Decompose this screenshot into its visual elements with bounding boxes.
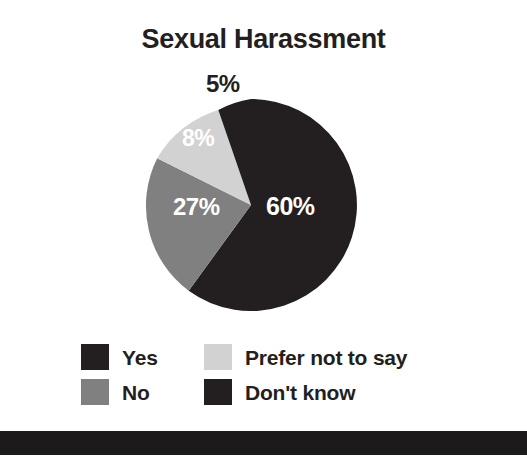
legend-label-no: No [122,382,150,403]
pie-value-label-prefer-not-to-say: 8% [182,125,214,152]
legend-swatch-prefer-not-to-say [204,344,232,370]
pie-chart-figure: Sexual Harassment 60% 27% 8% 5% Yes Pref… [0,0,527,464]
legend-label-yes: Yes [122,347,158,368]
legend-swatch-no [81,379,109,405]
legend-item-dont-know[interactable]: Don't know [204,379,355,405]
chart-legend: Yes Prefer not to say No Don't know [81,344,461,414]
legend-label-prefer-not-to-say: Prefer not to say [245,347,407,368]
page-title: Sexual Harassment [0,24,527,55]
legend-label-dont-know: Don't know [245,382,355,403]
pie-value-label-no: 27% [173,193,220,221]
page-edge-bar [0,431,527,455]
legend-row: No Don't know [81,379,461,414]
pie-value-label-yes: 60% [266,192,315,221]
legend-row: Yes Prefer not to say [81,344,461,379]
legend-item-prefer-not-to-say[interactable]: Prefer not to say [204,344,407,370]
legend-item-no[interactable]: No [81,379,204,405]
legend-swatch-dont-know [204,379,232,405]
legend-item-yes[interactable]: Yes [81,344,204,370]
legend-swatch-yes [81,344,109,370]
pie-value-label-dont-know: 5% [206,70,240,98]
